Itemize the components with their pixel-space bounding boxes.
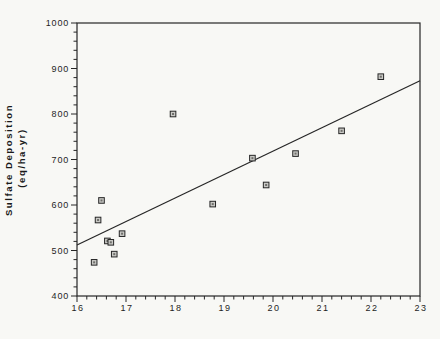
data-point-core <box>212 203 214 205</box>
y-tick-label: 400 <box>52 291 69 301</box>
y-tick-label: 700 <box>52 155 69 165</box>
x-tick-label: 18 <box>169 303 182 313</box>
data-point-core <box>172 113 174 115</box>
data-point-core <box>121 233 123 235</box>
x-tick-label: 16 <box>71 303 84 313</box>
y-tick-label: 900 <box>52 64 69 74</box>
x-tick-label: 17 <box>120 303 133 313</box>
data-point-core <box>341 130 343 132</box>
trend-line <box>77 81 420 245</box>
data-point-core <box>110 241 112 243</box>
x-tick-label: 23 <box>414 303 427 313</box>
y-tick-label: 800 <box>52 109 69 119</box>
sulfate-deposition-scatter-chart: Sulfate Deposition (eq/ha-yr) 1617181920… <box>0 0 440 339</box>
x-tick-label: 19 <box>218 303 231 313</box>
data-point-core <box>93 261 95 263</box>
y-tick-label: 1000 <box>46 18 69 28</box>
data-point-core <box>295 153 297 155</box>
y-axis-title: Sulfate Deposition <box>3 104 14 216</box>
data-point-core <box>380 76 382 78</box>
data-point-core <box>97 219 99 221</box>
x-tick-label: 22 <box>365 303 378 313</box>
data-point-core <box>251 157 253 159</box>
scatter-plot-figure: Sulfate Deposition (eq/ha-yr) 1617181920… <box>0 0 440 339</box>
data-point-core <box>113 253 115 255</box>
plot-frame <box>77 23 420 296</box>
y-axis-units: (eq/ha-yr) <box>16 128 27 187</box>
data-point-core <box>265 184 267 186</box>
x-tick-label: 21 <box>316 303 329 313</box>
data-point-core <box>101 199 103 201</box>
plot-area: 16171819202122234005006007008009001000 <box>46 18 428 313</box>
y-tick-label: 600 <box>52 200 69 210</box>
y-tick-label: 500 <box>52 246 69 256</box>
x-tick-label: 20 <box>267 303 280 313</box>
